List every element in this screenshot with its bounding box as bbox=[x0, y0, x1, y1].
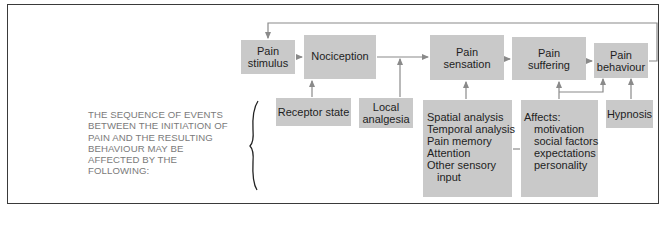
box-label: Pain bbox=[443, 46, 490, 58]
receptor-state-box: Receptor state bbox=[276, 98, 351, 126]
hypnosis-box: Hypnosis bbox=[606, 100, 653, 128]
box-label: Hypnosis bbox=[607, 108, 652, 120]
intro-line: BETWEEN THE INITIATION OF bbox=[88, 120, 248, 131]
intro-text: THE SEQUENCE OF EVENTS BETWEEN THE INITI… bbox=[88, 109, 248, 177]
box-label: Local bbox=[362, 101, 409, 113]
affects-item: personality bbox=[524, 159, 598, 171]
box-label: Nociception bbox=[311, 50, 368, 62]
pain-sensation-box: Pain sensation bbox=[430, 35, 504, 80]
affects-heading: Affects: bbox=[524, 111, 598, 123]
affects-item: motivation bbox=[524, 123, 598, 135]
factor-item: Temporal analysis bbox=[427, 123, 515, 135]
factor-item: Other sensory bbox=[427, 159, 515, 171]
box-label: suffering bbox=[528, 59, 570, 71]
box-label: sensation bbox=[443, 58, 490, 70]
affects-item: expectations bbox=[524, 147, 598, 159]
intro-line: THE SEQUENCE OF EVENTS bbox=[88, 109, 248, 120]
affects-box: Affects: motivation social factors expec… bbox=[521, 100, 598, 197]
box-label: Pain bbox=[528, 47, 570, 59]
nociception-box: Nociception bbox=[304, 35, 376, 79]
intro-line: BEHAVIOUR MAY BE bbox=[88, 143, 248, 154]
box-label: analgesia bbox=[362, 113, 409, 125]
pain-suffering-box: Pain suffering bbox=[512, 37, 586, 80]
pain-stimulus-box: Pain stimulus bbox=[241, 40, 295, 74]
factor-item: Attention bbox=[427, 147, 515, 159]
box-label: stimulus bbox=[248, 57, 288, 69]
box-label: Pain bbox=[248, 45, 288, 57]
box-label: behaviour bbox=[597, 61, 645, 73]
factor-item: Pain memory bbox=[427, 135, 515, 147]
box-label: Pain bbox=[597, 49, 645, 61]
box-label: Receptor state bbox=[278, 106, 350, 118]
intro-line: PAIN AND THE RESULTING bbox=[88, 132, 248, 143]
arrow-affects-to-behaviour bbox=[559, 79, 603, 92]
local-analgesia-box: Local analgesia bbox=[359, 98, 413, 128]
sensation-factors-box: Spatial analysis Temporal analysis Pain … bbox=[423, 100, 512, 197]
brace-icon bbox=[250, 101, 258, 190]
pain-behaviour-box: Pain behaviour bbox=[594, 43, 648, 78]
factor-item: input bbox=[427, 171, 515, 183]
affects-item: social factors bbox=[524, 135, 598, 147]
intro-line: AFFECTED BY THE bbox=[88, 154, 248, 165]
factor-item: Spatial analysis bbox=[427, 111, 515, 123]
intro-line: FOLLOWING: bbox=[88, 165, 248, 176]
